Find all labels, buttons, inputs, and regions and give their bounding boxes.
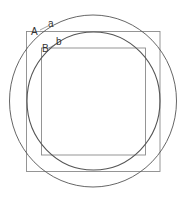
label-b: b bbox=[56, 36, 62, 47]
leader-b bbox=[49, 44, 56, 48]
label-A: A bbox=[31, 26, 38, 37]
nested-shapes-diagram: A a B b bbox=[0, 0, 185, 197]
inner-square-B bbox=[42, 48, 146, 155]
label-a: a bbox=[48, 18, 54, 29]
label-B: B bbox=[42, 43, 49, 54]
outer-circle-a bbox=[10, 15, 177, 187]
